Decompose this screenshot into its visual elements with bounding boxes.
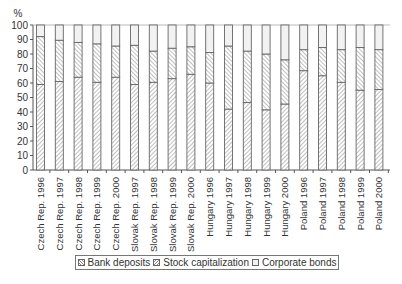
bar-stack [187, 25, 195, 170]
bar-segment [74, 42, 82, 77]
bar-segment [319, 76, 327, 170]
hatch-up-swatch-icon [153, 259, 160, 266]
x-tick-label: Poland 1999 [355, 177, 366, 230]
bar-stack [337, 25, 345, 170]
bar-segment [243, 103, 251, 170]
bar-segment [112, 25, 120, 46]
y-tick-label: 60 [17, 78, 29, 89]
bar-segment [356, 47, 364, 90]
bar-segment [356, 25, 364, 47]
legend-item-corporate-bonds: Corporate bonds [252, 257, 337, 268]
x-tick-label: Poland 1996 [298, 177, 309, 230]
bar-stack [281, 25, 289, 170]
bar-segment [225, 109, 233, 170]
x-tick-label: Poland 2000 [373, 177, 384, 230]
bar-segment [93, 25, 101, 44]
bar-segment [206, 83, 214, 170]
bar-segment [206, 25, 214, 53]
x-tick-label: Hungary 1997 [223, 177, 234, 237]
legend-label: Bank deposits [88, 257, 151, 268]
bar-stack [112, 25, 120, 170]
bar-segment [93, 82, 101, 170]
bar-segment [337, 25, 345, 50]
bar-segment [300, 25, 308, 50]
bar-segment [300, 50, 308, 71]
bar-segment [319, 47, 327, 75]
bar-segment [55, 82, 63, 170]
bar-segment [37, 25, 45, 37]
bar-segment [131, 45, 139, 84]
bar-segment [375, 90, 383, 170]
bar-stack [375, 25, 383, 170]
bar-segment [93, 44, 101, 82]
bar-segment [319, 25, 327, 47]
bar-stack [149, 25, 157, 170]
bar-segment [262, 110, 270, 170]
bar-segment [262, 25, 270, 54]
x-tick-label: Poland 1997 [317, 177, 328, 230]
bar-segment [131, 84, 139, 170]
bar-segment [375, 25, 383, 50]
bar-segment [74, 77, 82, 170]
bar-segment [37, 37, 45, 85]
bar-segment [187, 74, 195, 170]
y-tick-label: 0 [22, 165, 28, 176]
bar-segment [356, 90, 364, 170]
bar-segment [149, 51, 157, 82]
bar-segment [168, 48, 176, 78]
bar-segment [243, 51, 251, 102]
x-tick-label: Slovak Rep. 1997 [129, 177, 140, 252]
bar-segment [168, 25, 176, 48]
bar-segment [225, 46, 233, 109]
bar-stack [300, 25, 308, 170]
y-tick-label: 20 [17, 136, 29, 147]
bar-stack [37, 25, 45, 170]
bar-segment [262, 54, 270, 110]
bar-segment [112, 77, 120, 170]
bar-stack [206, 25, 214, 170]
stacked-bar-chart: 0102030405060708090100 Czech Rep. 1996Cz… [0, 0, 402, 284]
legend: Bank deposits Stock capitalization Corpo… [75, 255, 339, 270]
y-tick-label: 80 [17, 49, 29, 60]
y-tick-label: 100 [11, 20, 28, 31]
x-tick-label: Slovak Rep. 1998 [148, 177, 159, 252]
x-tick-label: Slovak Rep. 2000 [185, 177, 196, 252]
bar-segment [281, 60, 289, 104]
bar-stack [319, 25, 327, 170]
bar-segment [337, 50, 345, 83]
bar-segment [168, 79, 176, 170]
x-axis-labels: Czech Rep. 1996Czech Rep. 1997Czech Rep.… [35, 170, 388, 252]
bar-segment [206, 53, 214, 83]
bar-segment [337, 82, 345, 170]
x-tick-label: Czech Rep. 2000 [110, 177, 121, 250]
y-axis: 0102030405060708090100 [11, 20, 390, 176]
bar-stack [55, 25, 63, 170]
bar-stack [168, 25, 176, 170]
bar-stack [74, 25, 82, 170]
x-tick-label: Czech Rep. 1996 [35, 177, 46, 250]
bar-segment [112, 46, 120, 77]
x-tick-label: Slovak Rep. 1999 [167, 177, 178, 252]
bar-segment [131, 25, 139, 45]
bars [37, 25, 383, 170]
x-tick-label: Hungary 1999 [261, 177, 272, 237]
bar-stack [243, 25, 251, 170]
light-swatch-icon [252, 259, 259, 266]
bar-stack [262, 25, 270, 170]
bar-segment [74, 25, 82, 42]
x-tick-label: Czech Rep. 1999 [91, 177, 102, 250]
x-tick-label: Czech Rep. 1998 [73, 177, 84, 250]
bar-segment [149, 25, 157, 51]
bar-stack [93, 25, 101, 170]
bar-segment [300, 71, 308, 170]
bar-stack [131, 25, 139, 170]
y-axis-unit-label: % [14, 8, 23, 19]
x-tick-label: Hungary 2000 [279, 177, 290, 237]
y-tick-label: 30 [17, 121, 29, 132]
bar-segment [375, 50, 383, 90]
y-tick-label: 70 [17, 63, 29, 74]
bar-segment [281, 104, 289, 170]
bar-segment [243, 25, 251, 51]
legend-item-stock-capitalization: Stock capitalization [153, 257, 249, 268]
x-tick-label: Poland 1998 [336, 177, 347, 230]
